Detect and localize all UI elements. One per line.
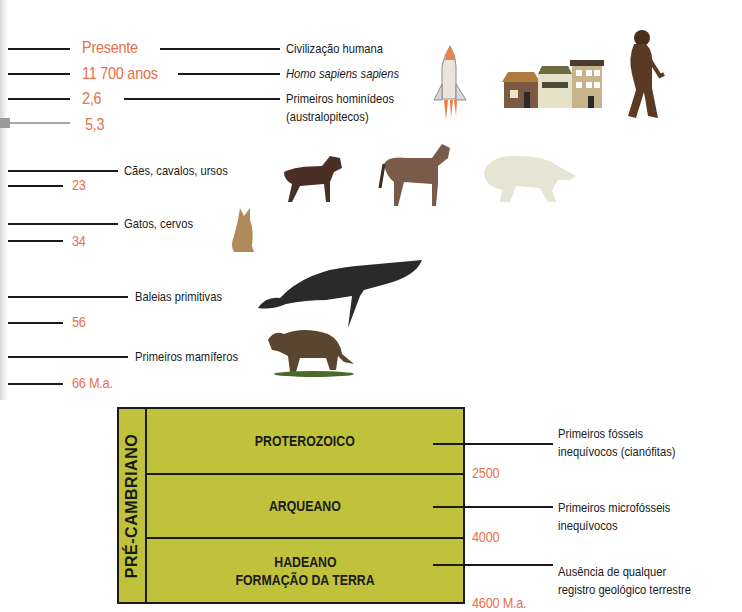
event-first-fossils: Primeiros fósseis xyxy=(558,425,643,442)
connector-archean xyxy=(433,506,553,508)
polar-bear-icon xyxy=(480,150,580,206)
space-shuttle-icon xyxy=(432,44,468,122)
event-first-microfossils: Primeiros microfósseis xyxy=(558,499,670,516)
tick-whales xyxy=(8,296,128,298)
age-5-3: 5,3 xyxy=(85,115,104,135)
age-present: Presente xyxy=(82,38,138,58)
connector-proterozoic xyxy=(433,443,553,445)
whale-icon xyxy=(256,256,424,330)
eon-hadean-subtitle: FORMAÇÃO DA TERRA xyxy=(235,571,374,589)
event-homo-sapiens: Homo sapiens sapiens xyxy=(286,65,399,82)
tick-56 xyxy=(8,322,63,324)
tick-66 xyxy=(8,383,63,385)
event-hominids: Primeiros hominídeos xyxy=(286,90,394,107)
tick-present xyxy=(8,48,70,50)
event-early-whales: Baleias primitivas xyxy=(135,288,222,305)
event-first-mammals: Primeiros mamíferos xyxy=(135,348,238,365)
age-4000: 4000 xyxy=(472,528,499,545)
event-civilization: Civilização humana xyxy=(286,40,383,57)
age-2-6: 2,6 xyxy=(82,89,101,109)
event-cats-deer: Gatos, cervos xyxy=(124,215,193,232)
connector-civilization xyxy=(160,48,280,50)
tick-5-3 xyxy=(10,122,70,124)
age-56: 56 xyxy=(72,313,86,330)
connector-hadean xyxy=(433,564,553,566)
houses-icon xyxy=(502,60,604,110)
age-4600ma: 4600 M.a. xyxy=(472,594,526,611)
eon-hadean: HADEANO FORMAÇÃO DA TERRA xyxy=(147,537,463,602)
dog-icon xyxy=(276,150,346,206)
connector-hominids xyxy=(124,98,280,100)
grey-marker xyxy=(0,118,10,128)
eon-archean-name: ARQUEANO xyxy=(269,497,341,515)
tick-34 xyxy=(8,240,63,242)
event-no-record-line2: registro geológico terrestre xyxy=(558,581,691,598)
eon-hadean-name: HADEANO xyxy=(274,553,336,571)
event-dogs-horses-bears: Cães, cavalos, ursos xyxy=(124,162,228,179)
event-no-record: Ausência de qualquer xyxy=(558,563,666,580)
timeline-edge xyxy=(0,0,8,400)
age-11700: 11 700 anos xyxy=(82,64,158,84)
age-66ma: 66 M.a. xyxy=(72,374,113,391)
event-hominids-line2: (australopitecos) xyxy=(286,108,369,125)
precambrian-block: PRÉ-CAMBRIANO PROTEROZOICO ARQUEANO HADE… xyxy=(117,407,465,604)
eon-archean: ARQUEANO xyxy=(147,473,463,537)
tick-cats xyxy=(8,223,118,225)
connector-homo-sapiens xyxy=(178,73,280,75)
precambrian-label: PRÉ-CAMBRIANO xyxy=(119,409,147,602)
precambrian-title: PRÉ-CAMBRIANO xyxy=(123,433,141,577)
event-first-fossils-line2: inequívocos (cianófitas) xyxy=(558,443,675,460)
age-34: 34 xyxy=(72,232,86,249)
hominid-icon xyxy=(622,28,668,122)
tick-11700 xyxy=(8,73,70,75)
tick-23 xyxy=(8,185,63,187)
tick-dogs-horses xyxy=(8,170,118,172)
age-23: 23 xyxy=(72,176,86,193)
horse-icon xyxy=(378,142,454,210)
event-first-microfossils-line2: inequívocos xyxy=(558,517,618,534)
early-mammal-icon xyxy=(264,326,360,378)
eon-proterozoic-name: PROTEROZOICO xyxy=(255,432,355,450)
age-2500: 2500 xyxy=(472,464,499,481)
tick-mammals xyxy=(8,356,128,358)
tick-2-6 xyxy=(8,98,70,100)
eon-proterozoic: PROTEROZOICO xyxy=(147,409,463,473)
cat-icon xyxy=(228,206,256,254)
